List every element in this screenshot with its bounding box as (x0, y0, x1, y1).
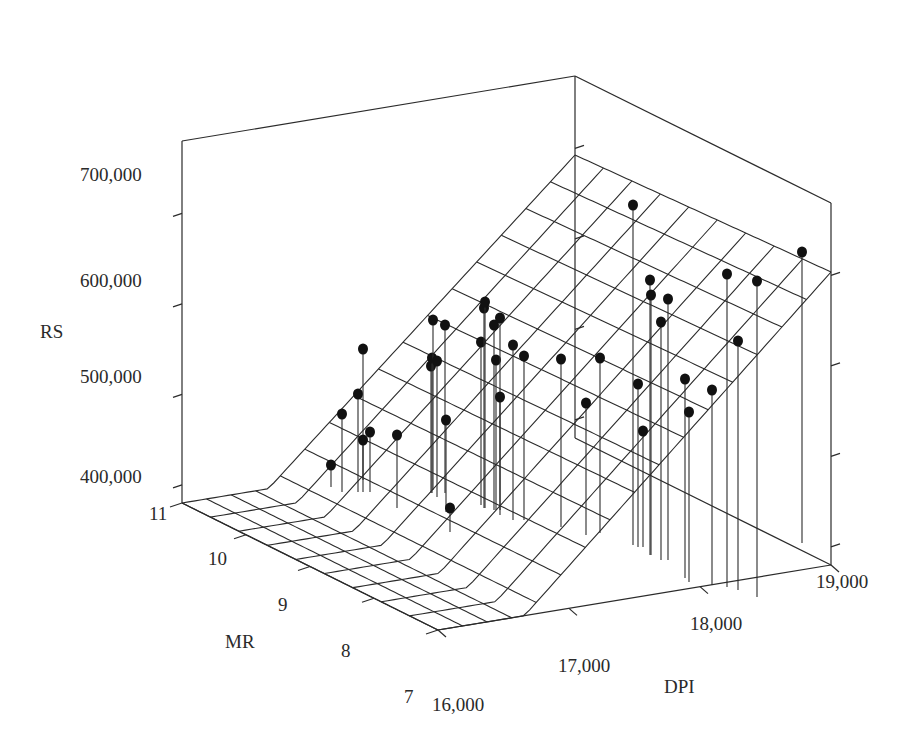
data-point (663, 294, 673, 305)
regression-surface (182, 155, 831, 630)
data-point (495, 392, 505, 403)
data-point (656, 317, 666, 328)
data-point (556, 354, 566, 365)
rs-tick-700000: 700,000 (80, 164, 142, 186)
data-point (628, 200, 638, 211)
dpi-tick-17000: 17,000 (558, 655, 610, 677)
data-point (595, 353, 605, 364)
data-point (508, 340, 518, 351)
rs-tick-400000: 400,000 (80, 466, 142, 488)
dpi-tick-19000: 19,000 (816, 571, 868, 593)
data-point (480, 297, 490, 308)
data-point (645, 275, 655, 286)
data-points (326, 200, 807, 598)
data-point (752, 276, 762, 287)
data-point (733, 336, 743, 347)
data-point (707, 385, 717, 396)
data-point (638, 426, 648, 437)
dpi-axis-title: DPI (664, 676, 695, 698)
rs-tick-500000: 500,000 (80, 366, 142, 388)
data-point (358, 435, 368, 446)
mr-tick-7: 7 (404, 686, 414, 708)
data-point (428, 315, 438, 326)
rs-axis-title: RS (40, 321, 63, 343)
data-point (495, 313, 505, 324)
data-point (633, 379, 643, 390)
dpi-tick-16000: 16,000 (432, 694, 484, 716)
data-point (353, 389, 363, 400)
data-point (581, 398, 591, 409)
data-point (722, 269, 732, 280)
mr-tick-11: 11 (149, 503, 167, 525)
data-point (797, 247, 807, 258)
data-point (365, 427, 375, 438)
rs-tick-600000: 600,000 (80, 270, 142, 292)
data-point (684, 407, 694, 418)
data-point (445, 503, 455, 514)
data-point (646, 290, 656, 301)
data-point (441, 415, 451, 426)
mr-tick-9: 9 (278, 594, 288, 616)
dpi-tick-18000: 18,000 (690, 613, 742, 635)
data-point (432, 356, 442, 367)
mr-tick-8: 8 (341, 640, 351, 662)
data-point (337, 409, 347, 420)
data-point (392, 430, 402, 441)
data-point (519, 351, 529, 362)
data-point (358, 344, 368, 355)
mr-axis-title: MR (225, 631, 255, 653)
data-point (440, 320, 450, 331)
mr-tick-10: 10 (208, 548, 227, 570)
axes-frame (170, 76, 840, 637)
data-point (680, 374, 690, 385)
data-point (326, 460, 336, 471)
